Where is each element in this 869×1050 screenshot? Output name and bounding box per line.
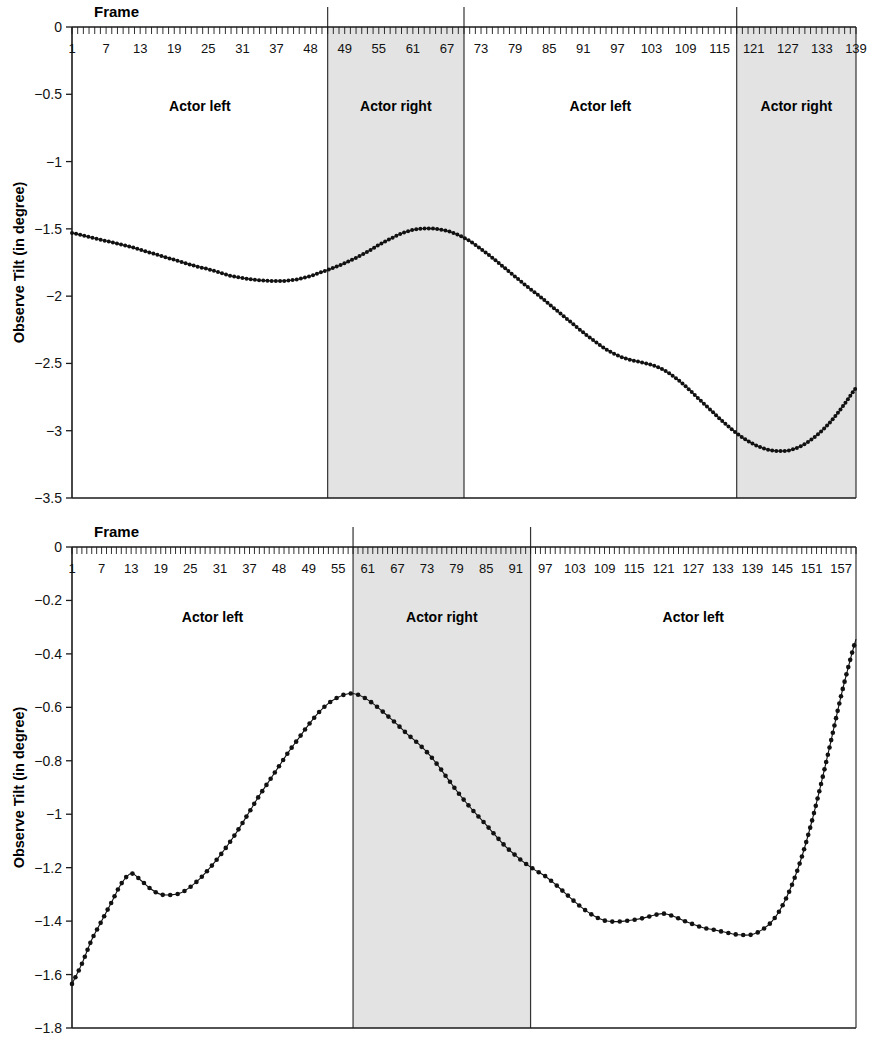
data-point bbox=[180, 260, 184, 264]
data-point bbox=[406, 229, 410, 233]
data-point bbox=[750, 442, 754, 446]
x-tick-label-3: 19 bbox=[167, 41, 181, 56]
data-point bbox=[208, 268, 212, 272]
data-point bbox=[95, 237, 99, 241]
data-point bbox=[484, 250, 488, 254]
data-point bbox=[518, 857, 523, 862]
data-point bbox=[232, 275, 236, 279]
data-point bbox=[711, 928, 716, 933]
data-point bbox=[88, 941, 93, 946]
chart-bottom-canvas: Actor leftActor rightActor left171319253… bbox=[0, 520, 869, 1050]
data-point bbox=[740, 435, 744, 439]
data-point bbox=[127, 244, 131, 248]
x-tick-label-9: 55 bbox=[331, 561, 345, 576]
data-point bbox=[245, 277, 249, 281]
data-point bbox=[403, 730, 408, 735]
data-point bbox=[648, 362, 652, 366]
data-point bbox=[733, 430, 737, 434]
data-point bbox=[312, 715, 317, 720]
data-point bbox=[410, 228, 414, 232]
y-axis-title: Observe Tilt (in degree) bbox=[11, 706, 27, 868]
x-tick-label-10: 61 bbox=[361, 561, 375, 576]
data-point bbox=[282, 279, 286, 283]
data-point bbox=[470, 241, 474, 245]
data-point bbox=[578, 328, 582, 332]
data-point bbox=[427, 226, 431, 230]
data-point bbox=[693, 393, 697, 397]
data-point bbox=[99, 238, 103, 242]
y-tick-label-6: −1.2 bbox=[34, 860, 62, 876]
data-point bbox=[216, 270, 220, 274]
data-point bbox=[806, 440, 810, 444]
data-point bbox=[194, 880, 199, 885]
data-point bbox=[552, 306, 556, 310]
data-point bbox=[439, 767, 444, 772]
data-point bbox=[481, 820, 486, 825]
x-tick-label-26: 157 bbox=[830, 561, 852, 576]
data-point bbox=[319, 270, 323, 274]
data-point bbox=[439, 228, 443, 232]
data-point bbox=[192, 264, 196, 268]
data-point bbox=[268, 776, 273, 781]
data-point bbox=[294, 739, 299, 744]
data-point bbox=[85, 948, 90, 953]
data-point bbox=[414, 227, 418, 231]
data-point bbox=[846, 665, 851, 670]
data-point bbox=[838, 407, 842, 411]
data-point bbox=[816, 432, 820, 436]
data-point bbox=[777, 909, 782, 914]
data-point bbox=[644, 361, 648, 365]
data-point bbox=[463, 236, 467, 240]
data-point bbox=[844, 672, 849, 677]
data-point bbox=[565, 317, 569, 321]
data-point bbox=[394, 234, 398, 238]
data-point bbox=[784, 896, 789, 901]
data-point bbox=[240, 821, 245, 826]
data-point bbox=[168, 893, 173, 898]
data-point bbox=[852, 643, 857, 648]
data-point bbox=[558, 312, 562, 316]
data-point bbox=[244, 814, 249, 819]
data-point bbox=[493, 258, 497, 262]
data-point bbox=[303, 276, 307, 280]
data-point bbox=[480, 248, 484, 252]
y-tick-label-5: −1 bbox=[46, 806, 62, 822]
data-point bbox=[136, 876, 141, 881]
data-point bbox=[850, 650, 855, 655]
data-point bbox=[281, 758, 286, 763]
data-point bbox=[779, 449, 783, 453]
data-point bbox=[130, 871, 135, 876]
data-point bbox=[369, 248, 373, 252]
data-point bbox=[516, 277, 520, 281]
data-point bbox=[790, 882, 795, 887]
x-tick-label-5: 31 bbox=[235, 41, 249, 56]
data-point bbox=[810, 818, 815, 823]
data-point bbox=[848, 658, 853, 663]
data-point bbox=[808, 825, 813, 830]
data-point bbox=[270, 279, 274, 283]
data-point bbox=[797, 861, 802, 866]
data-point bbox=[123, 243, 127, 247]
data-point bbox=[425, 750, 430, 755]
data-point bbox=[497, 261, 501, 265]
data-point bbox=[762, 926, 767, 931]
chart-top-canvas: Actor leftActor rightActor leftActor rig… bbox=[0, 0, 869, 520]
data-point bbox=[273, 770, 278, 775]
data-point bbox=[78, 233, 82, 237]
data-point bbox=[73, 975, 78, 980]
data-point bbox=[451, 231, 455, 235]
data-point bbox=[647, 914, 652, 919]
data-point bbox=[727, 425, 731, 429]
data-point bbox=[139, 248, 143, 252]
data-point bbox=[70, 231, 74, 235]
x-tick-label-13: 79 bbox=[449, 561, 463, 576]
data-point bbox=[455, 232, 459, 236]
data-point bbox=[598, 343, 602, 347]
x-tick-label-21: 127 bbox=[777, 41, 799, 56]
data-point bbox=[356, 693, 361, 698]
y-tick-label-5: −2.5 bbox=[34, 355, 62, 371]
data-point bbox=[90, 236, 94, 240]
data-point bbox=[210, 863, 215, 868]
data-point bbox=[720, 419, 724, 423]
x-tick-label-18: 109 bbox=[675, 41, 697, 56]
